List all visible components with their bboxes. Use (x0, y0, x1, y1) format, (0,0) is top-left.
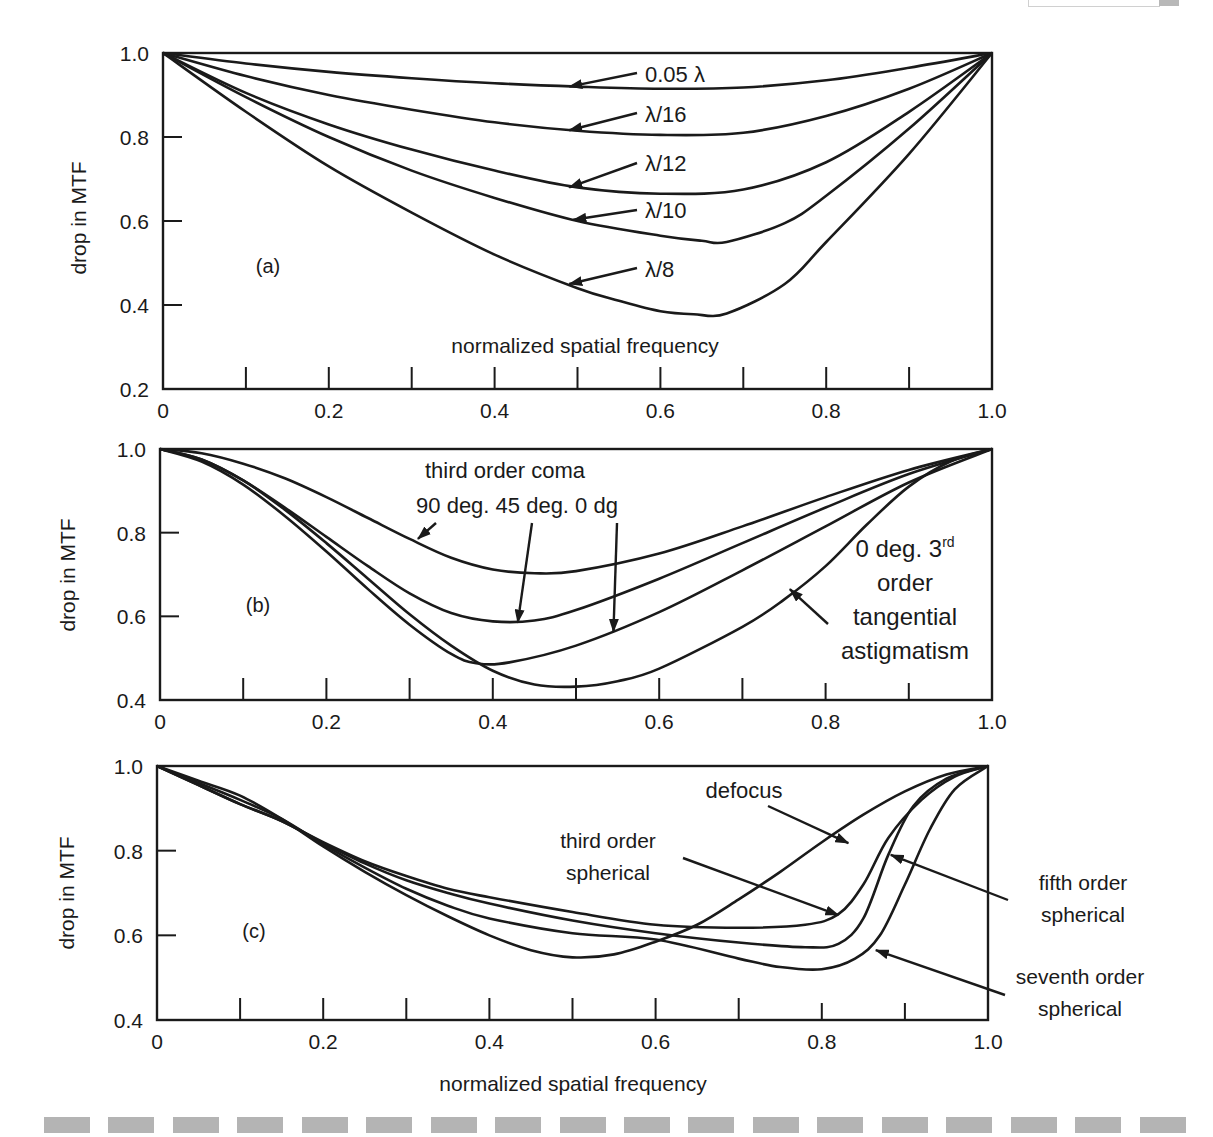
y-tick-label: 0.4 (120, 294, 150, 317)
annotation-label: spherical (1038, 997, 1122, 1020)
x-tick-label: 0.2 (312, 710, 341, 733)
annotation-arrow (790, 589, 828, 624)
panel-b: 1.00.80.60.400.20.40.60.81.0drop in MTF(… (56, 438, 1007, 733)
annotation-label: third order coma (425, 458, 586, 483)
x-axis-label: normalized spatial frequency (451, 334, 719, 357)
series-curve-3 (163, 53, 992, 243)
x-tick-label: 0.8 (811, 710, 840, 733)
annotation-label: λ/10 (645, 198, 687, 223)
dash-segment (624, 1117, 670, 1133)
x-tick-label: 0.2 (314, 399, 343, 422)
dash-segment (237, 1117, 283, 1133)
annotation-arrow (613, 523, 617, 632)
mtf-figure: 1.00.80.60.40.200.20.40.60.81.0drop in M… (0, 0, 1213, 1137)
y-tick-label: 0.8 (120, 126, 149, 149)
x-tick-label: 0.2 (309, 1030, 338, 1053)
plot-frame (157, 766, 988, 1020)
x-tick-label: 0.4 (475, 1030, 505, 1053)
panel-label: (c) (242, 920, 265, 942)
dash-segment (302, 1117, 348, 1133)
annotation-label: spherical (566, 861, 650, 884)
x-tick-label: 0.8 (807, 1030, 836, 1053)
dash-segment (366, 1117, 412, 1133)
dash-segment (44, 1117, 90, 1133)
annotation-label: order (877, 569, 933, 596)
y-tick-label: 0.4 (114, 1009, 144, 1032)
annotation-label: λ/8 (645, 257, 674, 282)
dash-segment (173, 1117, 219, 1133)
y-tick-label: 0.4 (117, 689, 147, 712)
annotation-label: 0 deg. 3rd (855, 534, 954, 562)
x-tick-label: 0 (154, 710, 166, 733)
x-tick-label: 1.0 (977, 399, 1006, 422)
annotation-label: λ/16 (645, 102, 687, 127)
annotation-label: astigmatism (841, 637, 969, 664)
annotation-arrow (573, 210, 637, 220)
y-tick-label: 0.6 (114, 924, 143, 947)
dash-segment (688, 1117, 734, 1133)
bottom-dashed-divider (18, 1117, 1178, 1133)
x-tick-label: 0.6 (645, 710, 674, 733)
x-tick-label: 0.8 (812, 399, 841, 422)
panel-label: (a) (256, 255, 280, 277)
x-tick-label: 0 (157, 399, 169, 422)
series-curve-2 (157, 766, 988, 947)
annotation-arrow (876, 950, 1005, 995)
panel-c: 1.00.80.60.400.20.40.60.81.0drop in MTFn… (55, 755, 1144, 1095)
y-axis-label: drop in MTF (67, 161, 90, 274)
annotation-label: 0.05 λ (645, 62, 705, 87)
x-tick-label: 1.0 (977, 710, 1006, 733)
dash-segment (817, 1117, 863, 1133)
dash-segment (1140, 1117, 1186, 1133)
dash-segment (560, 1117, 606, 1133)
y-axis-label: drop in MTF (55, 836, 78, 949)
dash-segment (946, 1117, 992, 1133)
dash-segment (431, 1117, 477, 1133)
annotation-arrow (768, 806, 848, 843)
y-tick-label: 0.8 (114, 840, 143, 863)
annotation-label: spherical (1041, 903, 1125, 926)
annotation-arrow (418, 523, 436, 539)
x-axis-label: normalized spatial frequency (439, 1072, 707, 1095)
y-tick-label: 0.6 (120, 210, 149, 233)
series-curve-1 (163, 53, 992, 135)
x-tick-label: 1.0 (973, 1030, 1002, 1053)
annotation-label: λ/12 (645, 151, 687, 176)
dash-segment (882, 1117, 928, 1133)
panel-label: (b) (246, 594, 270, 616)
y-axis-label: drop in MTF (56, 518, 79, 631)
annotation-label: fifth order (1039, 871, 1128, 894)
x-tick-label: 0.4 (478, 710, 508, 733)
annotation-arrow (569, 268, 637, 284)
x-tick-label: 0.4 (480, 399, 510, 422)
series-curve-0 (163, 53, 992, 89)
dash-segment (753, 1117, 799, 1133)
x-tick-label: 0.6 (641, 1030, 670, 1053)
y-tick-label: 1.0 (114, 755, 143, 778)
dash-segment (108, 1117, 154, 1133)
dash-segment (1011, 1117, 1057, 1133)
annotation-label: 90 deg. 45 deg. 0 dg (416, 493, 618, 518)
dash-segment (1075, 1117, 1121, 1133)
annotation-label: third order (560, 829, 656, 852)
y-tick-label: 1.0 (117, 438, 146, 461)
annotation-arrow (569, 73, 637, 87)
annotation-label: seventh order (1016, 965, 1144, 988)
y-tick-label: 0.8 (117, 522, 146, 545)
annotation-arrow (683, 858, 838, 915)
y-tick-label: 1.0 (120, 42, 149, 65)
annotation-label: defocus (705, 778, 782, 803)
annotation-arrow (569, 163, 637, 187)
dash-segment (495, 1117, 541, 1133)
x-tick-label: 0 (151, 1030, 163, 1053)
annotation-arrow (569, 113, 637, 130)
x-tick-label: 0.6 (646, 399, 675, 422)
y-tick-label: 0.2 (120, 378, 149, 401)
panel-a: 1.00.80.60.40.200.20.40.60.81.0drop in M… (67, 42, 1007, 422)
y-tick-label: 0.6 (117, 605, 146, 628)
annotation-label: tangential (853, 603, 957, 630)
